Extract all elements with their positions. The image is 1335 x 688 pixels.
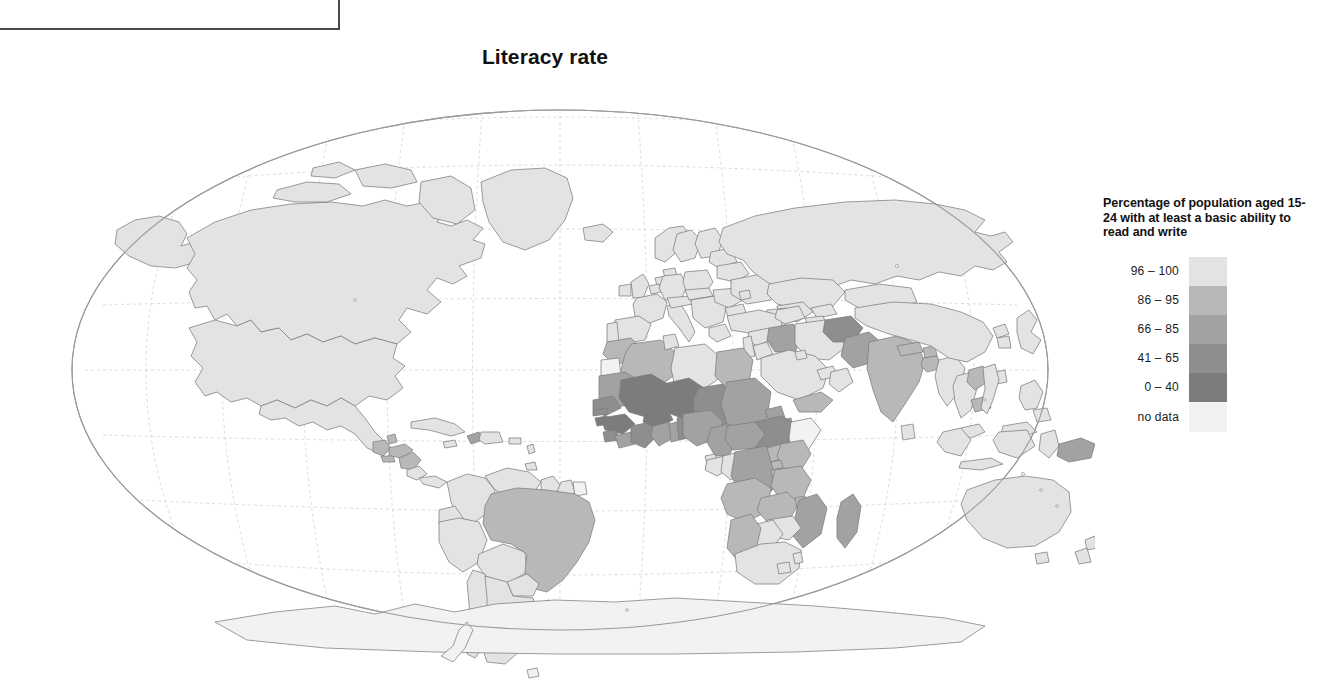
legend-item-0-40[interactable]: 0 – 40 xyxy=(1103,373,1317,402)
country-belize xyxy=(387,434,397,444)
country-moldova xyxy=(739,290,751,300)
legend-scale: 96 – 100 86 – 95 66 – 85 41 – 65 0 – 40 … xyxy=(1103,257,1317,432)
legend-item-86-95[interactable]: 86 – 95 xyxy=(1103,286,1317,315)
page-title: Literacy rate xyxy=(0,45,1090,69)
map-canvas xyxy=(72,110,1095,678)
country-el-salvador xyxy=(381,456,395,462)
legend-swatch xyxy=(1189,257,1227,286)
legend-label: no data xyxy=(1103,410,1189,424)
country-portugal xyxy=(607,322,619,342)
legend-swatch xyxy=(1189,315,1227,344)
legend-item-no-data[interactable]: no data xyxy=(1103,402,1317,432)
country-south-korea xyxy=(997,336,1011,348)
country-antarctica xyxy=(215,598,985,654)
legend-swatch xyxy=(1189,344,1227,373)
island-marker xyxy=(354,299,357,302)
country-ireland xyxy=(619,284,631,296)
island-marker xyxy=(1056,505,1059,508)
country-dominican-republic xyxy=(479,432,503,444)
country-puerto-rico xyxy=(509,438,521,444)
cropped-page-panel: g men xyxy=(0,0,340,30)
island-marker xyxy=(895,264,898,267)
legend-title: Percentage of population aged 15-24 with… xyxy=(1103,196,1317,240)
legend-swatch xyxy=(1189,373,1227,402)
country-swaziland xyxy=(793,552,803,564)
legend-label: 0 – 40 xyxy=(1103,380,1189,394)
country-australia xyxy=(961,476,1071,548)
island-marker xyxy=(1040,489,1043,492)
country-falkland-islands xyxy=(527,668,539,678)
country-sri-lanka xyxy=(901,424,915,440)
legend-label: 41 – 65 xyxy=(1103,351,1189,365)
country-lesotho xyxy=(777,562,791,574)
legend-label: 66 – 85 xyxy=(1103,322,1189,336)
map-legend: Percentage of population aged 15-24 with… xyxy=(1103,196,1327,432)
world-map-svg xyxy=(55,70,1095,688)
legend-item-66-85[interactable]: 66 – 85 xyxy=(1103,315,1317,344)
country-kuwait xyxy=(795,350,807,360)
legend-item-41-65[interactable]: 41 – 65 xyxy=(1103,344,1317,373)
country-tasmania xyxy=(1035,552,1049,564)
island-marker xyxy=(984,399,986,401)
country-germany xyxy=(659,274,687,300)
world-choropleth-map xyxy=(55,70,1095,688)
legend-label: 96 – 100 xyxy=(1103,264,1189,278)
country-new-zealand-south xyxy=(1075,548,1091,564)
island-marker xyxy=(626,609,629,612)
legend-label: 86 – 95 xyxy=(1103,293,1189,307)
legend-item-96-100[interactable]: 96 – 100 xyxy=(1103,257,1317,286)
island-marker xyxy=(1021,472,1024,475)
country-papua-new-guinea xyxy=(1057,438,1095,462)
country-indonesia-sulawesi xyxy=(1039,430,1059,458)
legend-swatch xyxy=(1189,286,1227,315)
legend-swatch xyxy=(1189,402,1227,432)
